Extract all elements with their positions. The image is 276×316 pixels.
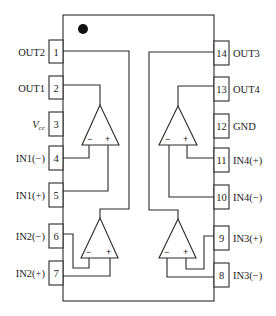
op-amp-1: − +: [63, 85, 119, 191]
wire-in2-plus: [63, 258, 110, 276]
pin-label: Vcc: [32, 119, 46, 132]
wire-out4: [178, 86, 214, 106]
pin-number: 6: [53, 231, 58, 242]
wire-in1-minus: [63, 145, 89, 158]
pin-number: 1: [53, 47, 58, 58]
pin-14: 14 OUT3: [214, 41, 260, 65]
pin-11: 11 IN4(+): [214, 148, 263, 172]
pin-label: OUT2: [18, 47, 45, 58]
pin-12: 12 GND: [214, 114, 256, 138]
wire-in3-minus: [167, 258, 214, 277]
pin1-marker-dot: [78, 24, 88, 34]
wire-out3: [149, 52, 214, 219]
pin-number: 8: [219, 270, 224, 281]
pin-number: 13: [216, 84, 227, 95]
pin-label: IN1(+): [16, 190, 46, 202]
pin-label: OUT1: [18, 83, 45, 94]
pin-10: 10 IN4(−): [214, 185, 263, 209]
pin-number: 4: [53, 153, 59, 164]
pin-5: 5 IN1(+): [16, 183, 63, 207]
pin-label: OUT3: [233, 48, 260, 59]
pin-label: IN3(+): [233, 233, 263, 245]
pin-label: GND: [233, 121, 256, 132]
pin-label: IN4(+): [233, 155, 263, 167]
plus-sign: +: [183, 134, 188, 144]
op-amp-4: − +: [159, 86, 214, 197]
pin-13: 13 OUT4: [214, 77, 261, 101]
pin-number: 3: [53, 119, 58, 130]
pin-label: IN2(−): [16, 231, 46, 243]
pin-number: 11: [216, 155, 226, 166]
pin-7: 7 IN2(+): [16, 261, 63, 285]
wire-out2: [63, 51, 129, 218]
pin-4: 4 IN1(−): [16, 146, 63, 170]
pin-6: 6 IN2(−): [16, 224, 63, 248]
plus-sign: +: [106, 247, 111, 257]
pin-1: 1 OUT2: [18, 40, 63, 63]
pin-label: IN2(+): [16, 268, 46, 280]
pinout-diagram: 1 OUT2 2 OUT1 3 Vcc 4 IN1(−) 5 IN1(+) 6 …: [0, 0, 276, 316]
pin-number: 2: [53, 83, 58, 94]
pin-label: IN3(−): [233, 270, 263, 282]
minus-sign: −: [165, 134, 170, 144]
pin-2: 2 OUT1: [18, 76, 63, 99]
wire-in4-plus: [187, 145, 214, 158]
pin-number: 9: [219, 233, 224, 244]
minus-sign: −: [164, 247, 169, 257]
plus-sign: +: [183, 247, 188, 257]
pin-number: 5: [53, 190, 58, 201]
wire-out1: [63, 85, 100, 105]
wire-in4-minus: [169, 145, 214, 197]
pin-number: 12: [216, 121, 227, 132]
plus-sign: +: [105, 134, 110, 144]
minus-sign: −: [87, 134, 92, 144]
wire-in3-plus: [186, 236, 214, 269]
pin-label: IN4(−): [233, 192, 263, 204]
pin-number: 10: [216, 192, 227, 203]
pin-number: 14: [216, 48, 227, 59]
pin-label: OUT4: [233, 84, 261, 95]
wire-in1-plus: [63, 145, 108, 191]
pin-label: IN1(−): [16, 153, 46, 165]
pin-9: 9 IN3(+): [214, 226, 263, 250]
pin-number: 7: [53, 268, 58, 279]
pin-8: 8 IN3(−): [214, 263, 263, 287]
pin-3: 3 Vcc: [32, 112, 63, 136]
minus-sign: −: [86, 247, 91, 257]
